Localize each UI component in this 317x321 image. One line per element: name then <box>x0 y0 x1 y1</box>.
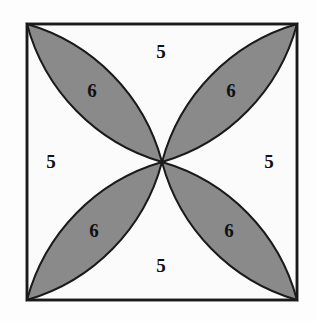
label-top-right-petal: 6 <box>226 80 236 101</box>
label-bottom-outer: 5 <box>156 255 166 276</box>
label-bottom-right-petal: 6 <box>224 220 234 241</box>
label-bottom-left-petal: 6 <box>89 220 99 241</box>
label-left-outer: 5 <box>46 151 56 172</box>
label-right-outer: 5 <box>264 151 274 172</box>
label-top-outer: 5 <box>156 41 166 62</box>
label-top-left-petal: 6 <box>87 80 97 101</box>
geometry-figure: 5 5 5 5 6 6 6 6 <box>0 0 317 321</box>
figure-container: 5 5 5 5 6 6 6 6 <box>0 0 317 321</box>
